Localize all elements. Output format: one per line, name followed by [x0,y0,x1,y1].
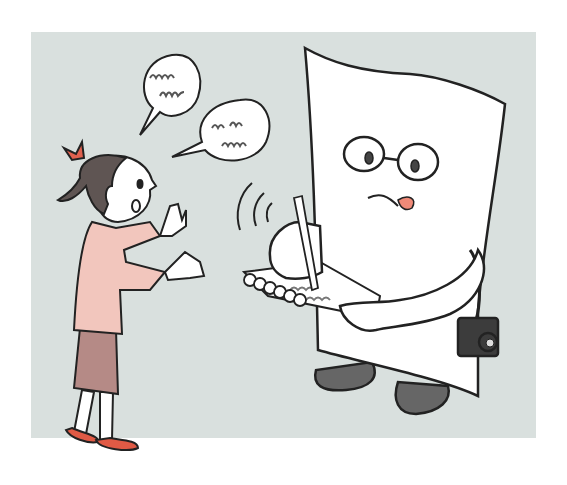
illustration [0,0,567,485]
girl-skirt [74,328,118,394]
girl-shoe-right [96,438,138,450]
illustration-canvas: Girl talking to a paper character taking… [0,0,567,485]
